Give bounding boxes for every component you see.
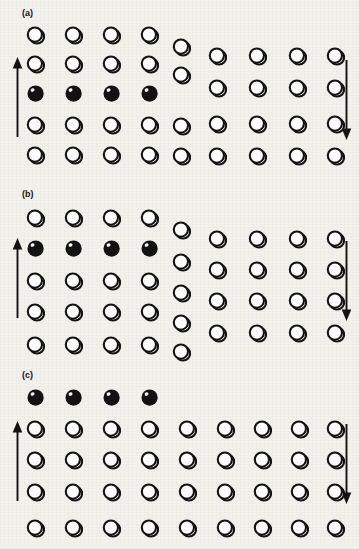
open-atom <box>288 230 307 249</box>
open-atom <box>64 519 83 538</box>
open-atom <box>64 272 83 291</box>
solid-atom <box>64 388 83 407</box>
open-atom <box>26 336 45 355</box>
open-atom <box>290 451 309 470</box>
solid-atom <box>140 388 159 407</box>
open-atom <box>326 451 345 470</box>
open-atom <box>208 261 227 280</box>
open-atom <box>102 519 121 538</box>
open-atom <box>102 451 121 470</box>
open-atom <box>26 483 45 502</box>
solid-atom <box>102 239 121 258</box>
open-atom <box>290 483 309 502</box>
panel-c: (c) <box>0 0 359 187</box>
open-atom <box>26 420 45 439</box>
open-atom <box>253 483 272 502</box>
panel-label-b: (b) <box>22 189 34 199</box>
solid-atom <box>140 239 159 258</box>
open-atom <box>216 420 235 439</box>
open-atom <box>140 272 159 291</box>
shear-arrow-up <box>11 421 24 501</box>
open-atom <box>178 519 197 538</box>
open-atom <box>64 336 83 355</box>
open-atom <box>208 324 227 343</box>
open-atom <box>290 420 309 439</box>
open-atom <box>326 420 345 439</box>
open-atom <box>102 483 121 502</box>
open-atom <box>140 483 159 502</box>
open-atom <box>140 209 159 228</box>
open-atom <box>172 284 191 303</box>
open-atom <box>248 230 267 249</box>
open-atom <box>326 483 345 502</box>
open-atom <box>26 519 45 538</box>
open-atom <box>140 303 159 322</box>
open-atom <box>172 253 191 272</box>
open-atom <box>102 209 121 228</box>
open-atom <box>140 451 159 470</box>
open-atom <box>178 483 197 502</box>
open-atom <box>64 420 83 439</box>
open-atom <box>64 209 83 228</box>
open-atom <box>248 292 267 311</box>
open-atom <box>102 303 121 322</box>
open-atom <box>172 343 191 362</box>
solid-atom <box>26 388 45 407</box>
open-atom <box>64 483 83 502</box>
open-atom <box>288 292 307 311</box>
open-atom <box>216 451 235 470</box>
open-atom <box>208 230 227 249</box>
open-atom <box>64 451 83 470</box>
open-atom <box>216 483 235 502</box>
solid-atom <box>64 239 83 258</box>
open-atom <box>26 209 45 228</box>
open-atom <box>326 324 345 343</box>
open-atom <box>178 451 197 470</box>
open-atom <box>172 314 191 333</box>
open-atom <box>178 420 197 439</box>
open-atom <box>216 519 235 538</box>
open-atom <box>26 272 45 291</box>
open-atom <box>102 336 121 355</box>
open-atom <box>102 272 121 291</box>
open-atom <box>140 336 159 355</box>
open-atom <box>253 451 272 470</box>
open-atom <box>326 519 345 538</box>
open-atom <box>26 451 45 470</box>
open-atom <box>140 519 159 538</box>
open-atom <box>326 292 345 311</box>
open-atom <box>208 292 227 311</box>
open-atom <box>140 420 159 439</box>
open-atom <box>64 303 83 322</box>
open-atom <box>253 420 272 439</box>
open-atom <box>326 261 345 280</box>
open-atom <box>26 303 45 322</box>
open-atom <box>248 324 267 343</box>
panel-label-c: (c) <box>22 370 33 380</box>
shear-arrow-up <box>11 238 24 318</box>
open-atom <box>172 221 191 240</box>
open-atom <box>288 261 307 280</box>
open-atom <box>102 420 121 439</box>
solid-atom <box>102 388 121 407</box>
open-atom <box>288 324 307 343</box>
dislocation-figure: (a)(b)(c) <box>0 0 359 549</box>
open-atom <box>290 519 309 538</box>
open-atom <box>326 230 345 249</box>
open-atom <box>248 261 267 280</box>
solid-atom <box>26 239 45 258</box>
open-atom <box>253 519 272 538</box>
